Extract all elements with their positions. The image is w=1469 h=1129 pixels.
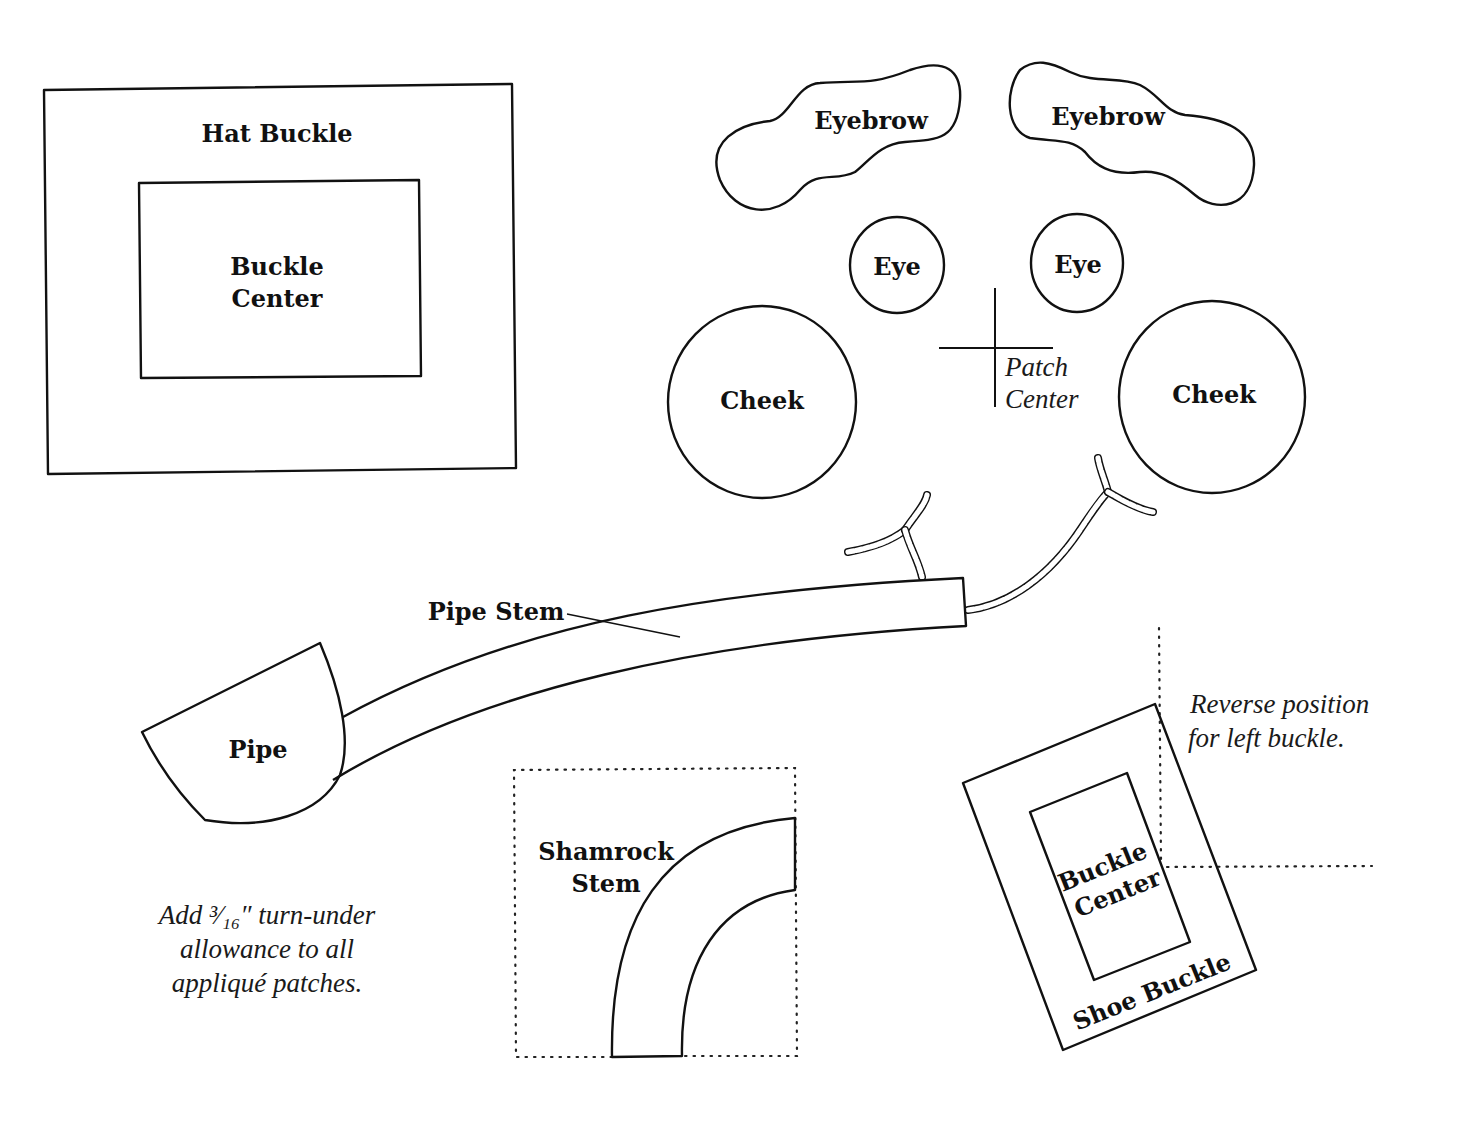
smoke-rope-left <box>848 495 927 577</box>
cheek-left-label: Cheek <box>720 386 805 415</box>
pipe-stem-label: Pipe Stem <box>428 597 565 626</box>
reverse-note-line-1: Reverse position <box>1189 689 1369 719</box>
eyebrow-right-piece: Eyebrow <box>1010 63 1254 205</box>
eye-right-label: Eye <box>1054 250 1102 279</box>
patch-center-label-1: Patch <box>1004 352 1068 382</box>
allowance-note-line-1: Add ³⁄₁₆″ turn-under <box>157 900 376 930</box>
cheek-right-piece: Cheek <box>1119 301 1305 493</box>
eye-left-piece: Eye <box>850 217 944 313</box>
hat-buckle-center-label-2: Center <box>232 284 323 313</box>
smoke-rope-right <box>968 458 1153 610</box>
pipe-piece: Pipe <box>142 643 345 823</box>
eyebrow-left-piece: Eyebrow <box>716 65 960 209</box>
pattern-sheet: Hat Buckle Buckle Center Eyebrow Eyebrow… <box>0 0 1469 1129</box>
hat-buckle-label: Hat Buckle <box>201 119 352 148</box>
reverse-note-line-2: for left buckle. <box>1188 723 1345 753</box>
allowance-note-line-3: appliqué patches. <box>172 968 362 998</box>
reverse-position-note: Reverse position for left buckle. <box>1188 689 1369 753</box>
shoe-buckle-label: Shoe Buckle <box>1069 947 1235 1037</box>
pipe-label: Pipe <box>228 735 287 764</box>
shamrock-stem-label-2: Stem <box>571 869 640 898</box>
eyebrow-right-label: Eyebrow <box>1051 102 1166 131</box>
hat-buckle-piece: Hat Buckle Buckle Center <box>44 84 516 474</box>
eye-right-piece: Eye <box>1031 214 1123 312</box>
shamrock-stem-piece: Shamrock Stem <box>514 768 797 1057</box>
eye-left-label: Eye <box>873 252 921 281</box>
shamrock-stem-label-1: Shamrock <box>538 837 675 866</box>
allowance-note-line-2: allowance to all <box>180 934 354 964</box>
eyebrow-left-label: Eyebrow <box>814 106 929 135</box>
allowance-note: Add ³⁄₁₆″ turn-under allowance to all ap… <box>157 900 376 998</box>
cheek-left-piece: Cheek <box>668 306 856 498</box>
patch-center-label-2: Center <box>1005 384 1079 414</box>
cheek-right-label: Cheek <box>1172 380 1257 409</box>
pipe-stem-piece: Pipe Stem <box>333 578 966 780</box>
hat-buckle-center-label-1: Buckle <box>230 252 323 281</box>
